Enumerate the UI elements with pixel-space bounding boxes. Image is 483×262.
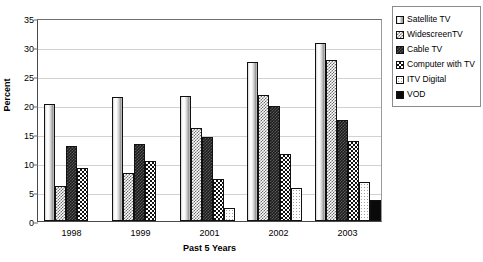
legend-item-satellite-tv[interactable]: Satellite TV: [396, 12, 477, 27]
bar-satellite-tv-2002[interactable]: [247, 62, 258, 222]
bar-widescreentv-2003[interactable]: [326, 60, 337, 221]
bar-itv-digital-2001[interactable]: [224, 208, 235, 221]
legend-item-label: ITV Digital: [407, 75, 446, 84]
y-axis-tick-label: 35: [24, 16, 34, 25]
bar-itv-digital-2003[interactable]: [359, 182, 370, 221]
bar-vod-2003[interactable]: [370, 200, 381, 221]
legend-item-itv-digital[interactable]: ITV Digital: [396, 72, 477, 87]
legend-swatch-icon: [396, 61, 404, 69]
legend-swatch-icon: [396, 46, 404, 54]
x-axis-tick-label: 2003: [313, 224, 382, 242]
bar-widescreentv-2001[interactable]: [191, 128, 202, 221]
bar-group: [106, 20, 174, 221]
bar-cable-tv-1999[interactable]: [134, 144, 145, 221]
bar-group: [241, 20, 309, 221]
legend-item-cable-tv[interactable]: Cable TV: [396, 42, 477, 57]
bar-satellite-tv-1999[interactable]: [112, 97, 123, 221]
bar-groups: [38, 20, 381, 221]
legend-swatch-icon: [396, 16, 404, 24]
legend-item-vod[interactable]: VOD: [396, 87, 477, 102]
bar-satellite-tv-1998[interactable]: [44, 104, 55, 221]
legend-item-label: Satellite TV: [407, 15, 450, 24]
legend-item-label: VOD: [407, 90, 425, 99]
x-axis-tick-labels: 19981999200120022003: [37, 224, 382, 242]
bar-cable-tv-2003[interactable]: [337, 120, 348, 222]
bar-group: [174, 20, 242, 221]
bar-satellite-tv-2003[interactable]: [315, 43, 326, 221]
bar-widescreentv-2002[interactable]: [258, 95, 269, 221]
bar-computer-with-tv-1999[interactable]: [145, 161, 156, 221]
bar-computer-with-tv-1998[interactable]: [77, 168, 88, 221]
legend-item-computer-with-tv[interactable]: Computer with TV: [396, 57, 477, 72]
bar-group: [309, 20, 381, 221]
bar-itv-digital-2002[interactable]: [291, 188, 302, 221]
bar-group: [38, 20, 106, 221]
bar-computer-with-tv-2003[interactable]: [348, 141, 359, 221]
chart-legend: Satellite TVWidescreenTVCable TVComputer…: [392, 6, 481, 107]
x-axis-title: Past 5 Years: [37, 243, 382, 253]
legend-item-label: Computer with TV: [407, 60, 475, 69]
bar-cable-tv-1998[interactable]: [66, 146, 77, 221]
legend-item-label: Cable TV: [407, 45, 442, 54]
bar-cable-tv-2001[interactable]: [202, 137, 213, 221]
x-axis-tick-label: 2002: [244, 224, 313, 242]
x-axis-tick-label: 1999: [106, 224, 175, 242]
bar-chart: Percent 05101520253035 19981999200120022…: [0, 0, 483, 262]
y-axis-tick-label: 30: [24, 45, 34, 54]
legend-swatch-icon: [396, 31, 404, 39]
y-axis-tick-label: 20: [24, 103, 34, 112]
y-axis-tick-label: 10: [24, 161, 34, 170]
x-axis-tick-label: 1998: [37, 224, 106, 242]
legend-swatch-icon: [396, 91, 404, 99]
y-axis-tick-label: 15: [24, 132, 34, 141]
legend-item-widescreentv[interactable]: WidescreenTV: [396, 27, 477, 42]
y-axis-tick-label: 25: [24, 74, 34, 83]
bar-computer-with-tv-2002[interactable]: [280, 154, 291, 221]
bar-widescreentv-1998[interactable]: [55, 186, 66, 221]
legend-swatch-icon: [396, 76, 404, 84]
x-axis-tick-label: 2001: [175, 224, 244, 242]
y-axis-title: Percent: [2, 78, 12, 111]
bar-widescreentv-1999[interactable]: [123, 173, 134, 221]
bar-satellite-tv-2001[interactable]: [180, 96, 191, 221]
bar-cable-tv-2002[interactable]: [269, 106, 280, 221]
bar-computer-with-tv-2001[interactable]: [213, 179, 224, 221]
legend-item-label: WidescreenTV: [407, 30, 463, 39]
plot-area: 05101520253035: [37, 19, 382, 222]
